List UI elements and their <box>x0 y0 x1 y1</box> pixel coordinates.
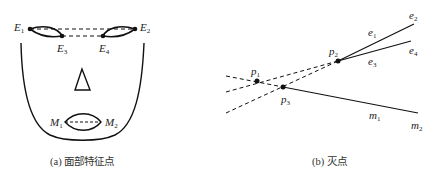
right-eye <box>103 27 135 37</box>
face-outline <box>21 43 144 140</box>
label-E3: E3 <box>57 43 67 58</box>
label-E2: E2 <box>140 22 150 37</box>
label-E1: E1 <box>14 22 24 37</box>
caption-a: (a) 面部特征点 <box>50 153 114 168</box>
label-m2: m2 <box>411 120 422 135</box>
label-e2: e2 <box>409 10 417 25</box>
label-E4: E4 <box>99 43 109 58</box>
label-p2: p2 <box>329 46 338 61</box>
label-e1: e1 <box>368 27 376 42</box>
label-e4: e4 <box>409 45 417 60</box>
label-M2: M2 <box>105 117 118 132</box>
eye-points <box>28 27 138 39</box>
label-M1: M1 <box>50 117 63 132</box>
vanishing-points <box>255 59 341 90</box>
nose-triangle <box>75 69 90 90</box>
caption-b: (b) 灭点 <box>312 153 347 168</box>
label-p1: p1 <box>251 66 260 81</box>
label-e3: e3 <box>368 56 376 71</box>
label-m1: m1 <box>369 110 380 125</box>
solid-lines <box>283 24 418 113</box>
left-eye <box>30 27 62 37</box>
eye-dashed-lines <box>30 29 135 36</box>
label-p3: p3 <box>281 94 290 109</box>
